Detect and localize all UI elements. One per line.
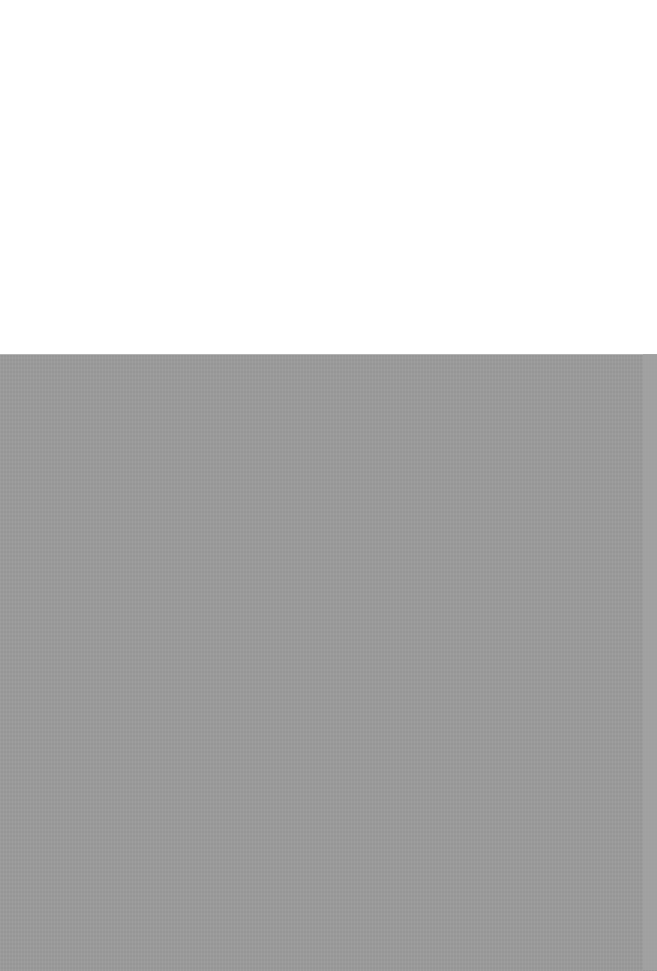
gray-panel	[0, 354, 657, 971]
blank-white-area	[0, 0, 657, 354]
right-edge-strip	[643, 354, 657, 970]
